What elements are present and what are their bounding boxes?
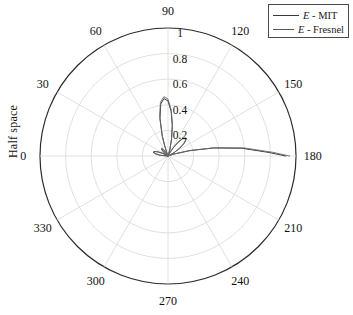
radial-tick-1: 1 [177,27,183,39]
angle-tick-30: 30 [37,76,49,91]
legend-swatch-fresnel [273,29,294,30]
angle-tick-90: 90 [162,4,174,19]
radial-tick-0.4: 0.4 [173,104,187,116]
polar-plot-figure: Half space E - MIT E - Fresnel 030609012… [0,0,353,315]
angle-tick-270: 270 [159,293,177,308]
angle-tick-210: 210 [284,221,302,236]
legend-item-mit: E - MIT [273,8,344,22]
radial-tick-0.8: 0.8 [173,53,187,65]
angle-tick-0: 0 [20,149,26,164]
radial-tick-0.6: 0.6 [173,78,187,90]
legend: E - MIT E - Fresnel [268,4,349,38]
angle-tick-60: 60 [90,23,102,38]
angle-tick-150: 150 [284,76,302,91]
radial-tick-0.2: 0.2 [173,129,187,141]
angle-tick-240: 240 [231,274,249,289]
angle-tick-120: 120 [231,23,249,38]
y-axis-label: Half space [6,97,21,167]
legend-label-fresnel: E - Fresnel [298,24,344,35]
legend-label-mit: E - MIT [303,10,337,21]
legend-swatch-mit [273,15,299,16]
angle-tick-180: 180 [304,149,322,164]
angle-tick-300: 300 [87,274,105,289]
polar-chart-canvas [0,0,353,315]
legend-item-fresnel: E - Fresnel [273,22,344,36]
angle-tick-330: 330 [34,221,52,236]
